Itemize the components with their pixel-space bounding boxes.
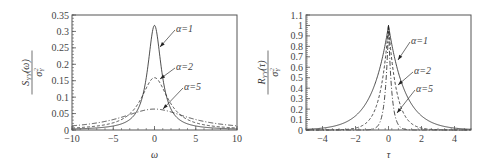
x-axis-label: τ bbox=[387, 149, 391, 160]
x-tick-label: −10 bbox=[64, 133, 80, 144]
y-tick-label: 0.2 bbox=[291, 104, 304, 115]
x-tick-label: 0 bbox=[386, 133, 391, 144]
annotation-label: α=5 bbox=[184, 81, 201, 92]
curve-α=5 bbox=[306, 25, 471, 130]
curve-α=2 bbox=[72, 78, 237, 128]
y-tick-label: 0.05 bbox=[52, 108, 70, 119]
y-tick-label: 0.25 bbox=[52, 42, 70, 53]
y-axis-label: SYY(ω)σY2 bbox=[20, 51, 45, 95]
x-tick-label: 4 bbox=[452, 133, 457, 144]
svg-text:σY2: σY2 bbox=[269, 68, 281, 77]
svg-text:RYY(τ): RYY(τ) bbox=[256, 60, 269, 86]
y-tick-label: 0.6 bbox=[291, 62, 304, 73]
y-tick-label: 0.7 bbox=[291, 51, 304, 62]
y-tick-label: 0.2 bbox=[57, 59, 70, 70]
x-tick-label: −5 bbox=[108, 133, 119, 144]
y-tick-label: 0.15 bbox=[52, 75, 70, 86]
y-axis-label: RYY(τ)σY2 bbox=[256, 51, 281, 95]
annotation-label: α=1 bbox=[411, 35, 428, 46]
y-tick-label: 1 bbox=[298, 20, 303, 31]
x-tick-label: 0 bbox=[152, 133, 157, 144]
y-tick-label: 1.1 bbox=[291, 10, 304, 21]
annotation-label: α=2 bbox=[414, 65, 431, 76]
annotation-label: α=2 bbox=[176, 61, 193, 72]
y-tick-label: 0.9 bbox=[291, 30, 304, 41]
svg-text:SYY(ω): SYY(ω) bbox=[20, 59, 33, 86]
psd-chart: 00.050.10.150.20.250.30.35−10−50510ωSYY(… bbox=[20, 10, 242, 161]
annotation-label: α=1 bbox=[176, 23, 193, 34]
curve-α=5 bbox=[72, 109, 237, 126]
x-tick-label: 10 bbox=[232, 133, 242, 144]
y-tick-label: 0.8 bbox=[291, 41, 304, 52]
plot-frame bbox=[72, 15, 237, 130]
figure: 00.050.10.150.20.250.30.35−10−50510ωSYY(… bbox=[0, 0, 485, 167]
svg-text:σY2: σY2 bbox=[33, 68, 45, 77]
x-tick-label: 2 bbox=[419, 133, 424, 144]
curve-α=1 bbox=[72, 25, 237, 129]
x-axis-label: ω bbox=[151, 149, 158, 160]
x-tick-label: −2 bbox=[350, 133, 361, 144]
x-tick-label: 5 bbox=[193, 133, 198, 144]
curve-α=2 bbox=[306, 25, 471, 130]
autocorrelation-chart: 00.10.20.30.40.50.60.70.80.911.1−4−2024τ… bbox=[256, 10, 471, 161]
y-tick-label: 0.5 bbox=[291, 72, 304, 83]
x-tick-label: −4 bbox=[317, 133, 328, 144]
y-tick-label: 0.35 bbox=[52, 10, 70, 21]
y-tick-label: 0.1 bbox=[291, 114, 304, 125]
curve-α=1 bbox=[306, 25, 471, 129]
y-tick-label: 0.3 bbox=[291, 93, 304, 104]
y-tick-label: 0.4 bbox=[291, 83, 304, 94]
y-tick-label: 0.3 bbox=[57, 26, 70, 37]
annotation-label: α=5 bbox=[416, 83, 433, 94]
y-tick-label: 0 bbox=[298, 125, 303, 136]
y-tick-label: 0.1 bbox=[57, 92, 70, 103]
